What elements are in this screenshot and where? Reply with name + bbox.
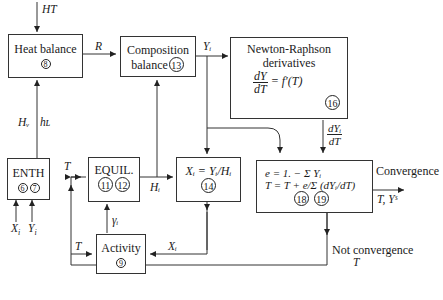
xi-input-label: Xi <box>11 222 20 237</box>
equation-number-16: 16 <box>325 95 340 110</box>
derivatives-label: derivatives <box>231 56 347 70</box>
equil-box: EQUIL. 1112 <box>88 157 140 202</box>
not-convergence-label: Not convergence <box>332 243 413 258</box>
convergence-label: Convergence <box>376 164 439 179</box>
enth-label: ENTH <box>8 166 49 180</box>
equation-number-11: 11 <box>98 177 113 192</box>
xi-activity-label: Xᵢ <box>168 240 177 252</box>
equation-number-8: 8 <box>41 59 51 69</box>
xi-calculation-box: Xᵢ = Yᵢ/Hᵢ 14 <box>176 157 241 202</box>
dyi-dt-arrow-label: dYᵢdT <box>327 122 342 147</box>
r-label: R <box>95 40 102 52</box>
t-activity-label: T <box>75 240 81 252</box>
activity-label: Activity <box>97 241 145 255</box>
equation-number-19: 19 <box>314 191 329 206</box>
convergence-output-label: T, Yˢ <box>377 193 397 205</box>
composition-label: Composition <box>121 43 195 57</box>
equation-number-13: 13 <box>169 57 184 72</box>
xi-formula: Xᵢ = Yᵢ/Hᵢ <box>177 164 240 178</box>
temperature-update-formula: T = T + e/Σ (dYᵢ/dT) <box>265 179 372 191</box>
derivative-rhs: = f′(T) <box>271 74 303 88</box>
ht-input-label: HT <box>42 3 57 15</box>
activity-box: Activity 9 <box>96 234 146 274</box>
yi-input-label: Yi <box>28 222 37 237</box>
convergence-calculation-box: e = 1. − Σ Yᵢ T = T + e/Σ (dYᵢ/dT) 18 19 <box>256 160 373 213</box>
hv-label: Hᵥ <box>18 116 30 128</box>
equil-label: EQUIL. <box>89 163 139 177</box>
equation-number-12: 12 <box>115 177 130 192</box>
newton-raphson-box: Newton-Raphson derivatives dYdT = f′(T) … <box>230 37 348 119</box>
equation-number-9: 9 <box>116 258 126 268</box>
equation-number-7: 7 <box>30 183 40 193</box>
error-formula: e = 1. − Σ Yᵢ <box>265 167 372 179</box>
heat-balance-box: Heat balance 8 <box>8 34 83 78</box>
not-convergence-t-label: T <box>353 256 359 268</box>
composition-balance-box: Composition balance13 <box>120 36 196 77</box>
t-enth-label: T <box>64 160 70 172</box>
yi-output-label: Yᵢ <box>203 40 211 52</box>
dyi-dt-fraction: dYdT <box>253 70 268 95</box>
equation-number-18: 18 <box>294 191 309 206</box>
heat-balance-label: Heat balance <box>9 42 82 56</box>
hl-label: hʟ <box>40 116 50 128</box>
balance-label: balance <box>131 58 168 72</box>
gamma-label: γᵢ <box>112 214 118 226</box>
equation-number-6: 6 <box>18 183 28 193</box>
newton-raphson-label: Newton-Raphson <box>231 42 347 56</box>
equation-number-14: 14 <box>201 178 216 193</box>
hi-label: Hᵢ <box>150 181 160 193</box>
enth-box: ENTH 67 <box>7 158 50 200</box>
